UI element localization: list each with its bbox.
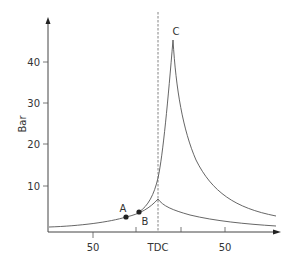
point-b-marker: [136, 209, 141, 214]
point-a-marker: [123, 214, 128, 219]
y-tick-label-20: 20: [27, 139, 40, 150]
y-tick-label-40: 40: [27, 57, 40, 68]
motored-pressure-curve: [49, 199, 276, 227]
point-c-label: C: [173, 26, 180, 37]
x-tick-label-right-50: 50: [219, 242, 232, 253]
x-tick-label-left-50: 50: [87, 242, 100, 253]
point-b-label: B: [142, 216, 149, 227]
y-axis-arrow-icon: [46, 17, 51, 24]
point-a-label: A: [120, 203, 127, 214]
firing-pressure-curve: [139, 40, 276, 216]
x-tick-label-tdc: TDC: [147, 242, 169, 253]
y-axis-title: Bar: [17, 115, 28, 133]
pressure-crank-angle-diagram: 40 30 20 10 Bar 50 TDC 50 A B C: [0, 0, 288, 262]
x-axis-arrow-icon: [273, 230, 281, 235]
y-tick-label-10: 10: [27, 181, 40, 192]
y-tick-label-30: 30: [27, 98, 40, 109]
y-ticks: [43, 62, 48, 186]
